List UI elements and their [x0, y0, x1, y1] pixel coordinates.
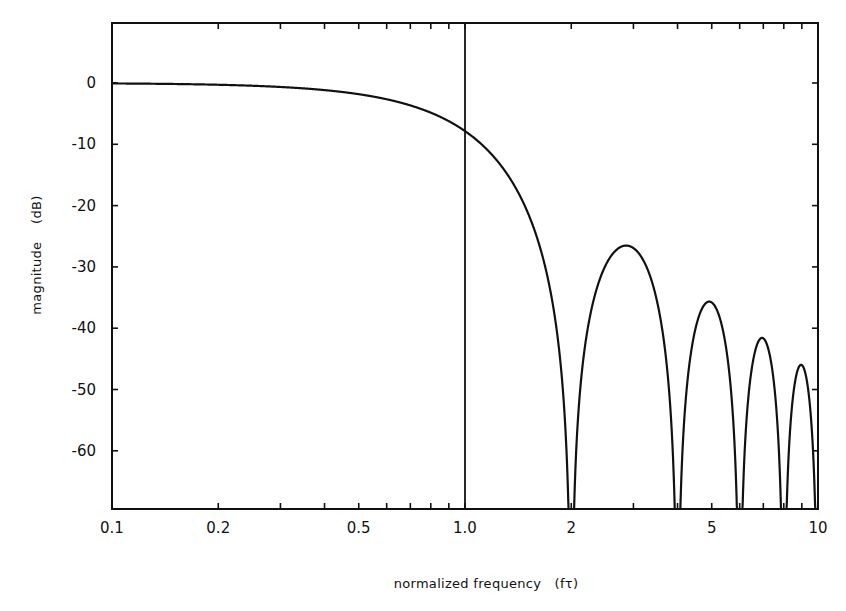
- y-tick-label: -40: [72, 319, 97, 337]
- y-tick-label: -10: [72, 135, 97, 153]
- x-tick-label: 0.5: [347, 519, 371, 537]
- y-axis-ticks: 0-10-20-30-40-50-60: [72, 74, 819, 460]
- y-tick-label: -60: [72, 442, 97, 460]
- x-tick-label: 10: [808, 519, 827, 537]
- x-axis-ticks: 0.10.20.51.02510: [100, 23, 827, 537]
- magnitude-response-chart: 0.10.20.51.02510 0-10-20-30-40-50-60 nor…: [0, 0, 846, 611]
- y-axis-label: magnitude (dB): [29, 195, 44, 314]
- x-axis-label: normalized frequency (fτ): [394, 576, 579, 591]
- x-tick-label: 0.2: [206, 519, 230, 537]
- y-tick-label: -30: [72, 258, 97, 276]
- y-tick-label: -50: [72, 381, 97, 399]
- x-tick-label: 5: [707, 519, 717, 537]
- y-tick-label: 0: [86, 74, 96, 92]
- x-tick-label: 1.0: [453, 519, 477, 537]
- y-tick-label: -20: [72, 197, 97, 215]
- x-tick-label: 0.1: [100, 519, 124, 537]
- x-tick-label: 2: [566, 519, 576, 537]
